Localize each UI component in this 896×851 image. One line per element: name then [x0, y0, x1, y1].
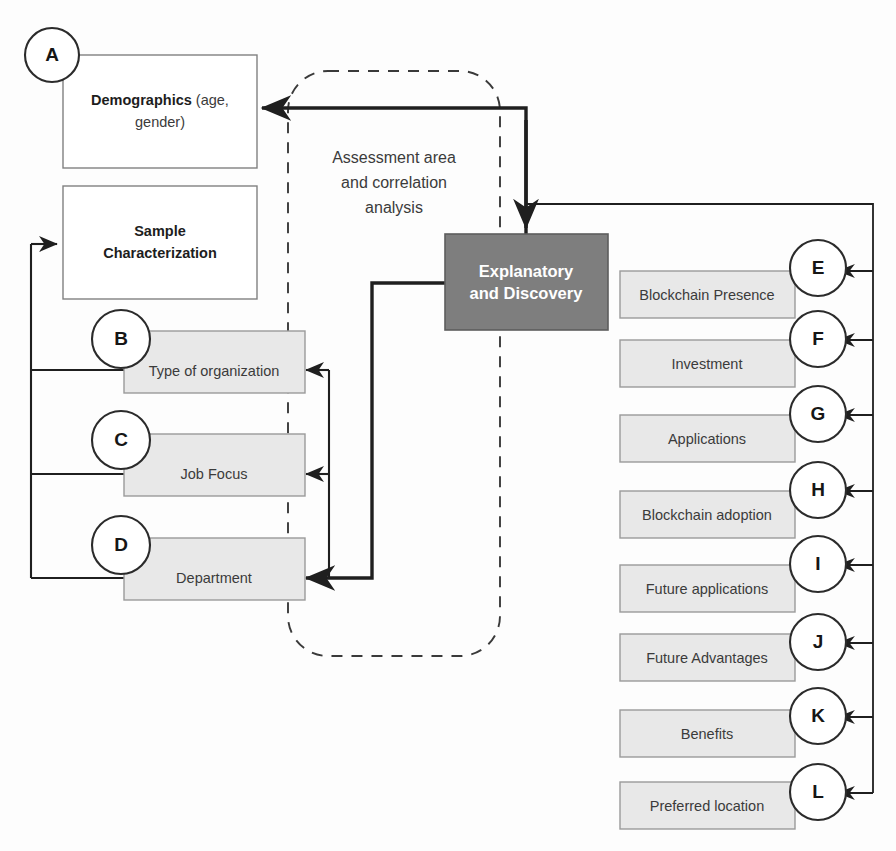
- node-label-benefits: Benefits: [681, 726, 733, 742]
- assessment-area-label-line-1: Assessment area: [332, 149, 456, 166]
- badge-g-label: G: [811, 403, 826, 424]
- badge-f[interactable]: F: [790, 311, 846, 367]
- node-label-demographics-bold: Demographics: [91, 92, 192, 108]
- node-label-applications: Applications: [668, 431, 746, 447]
- badge-b-label: B: [114, 328, 128, 349]
- badge-j[interactable]: J: [790, 614, 846, 670]
- badge-a[interactable]: A: [25, 28, 79, 82]
- node-label-sample-characterization-line1: Sample: [134, 223, 186, 239]
- badge-c-label: C: [114, 429, 128, 450]
- badge-j-label: J: [813, 631, 824, 652]
- badge-k-label: K: [811, 705, 825, 726]
- node-label-demographics-line2: gender): [135, 114, 185, 130]
- node-label-blockchain-presence: Blockchain Presence: [639, 287, 774, 303]
- node-label-explanatory-line2: and Discovery: [470, 284, 584, 302]
- badge-e[interactable]: E: [790, 240, 846, 296]
- badge-d-label: D: [114, 534, 128, 555]
- node-label-blockchain-adoption: Blockchain adoption: [642, 507, 772, 523]
- badge-l-label: L: [812, 781, 824, 802]
- node-label-demographics: Demographics (age,: [91, 92, 229, 108]
- badge-i-label: I: [815, 553, 820, 574]
- node-label-demographics-rest: (age,: [192, 92, 229, 108]
- node-label-job-focus: Job Focus: [181, 466, 248, 482]
- node-label-investment: Investment: [672, 356, 743, 372]
- badge-b[interactable]: B: [92, 310, 150, 368]
- badge-c[interactable]: C: [92, 411, 150, 469]
- badge-k[interactable]: K: [790, 688, 846, 744]
- badge-g[interactable]: G: [790, 386, 846, 442]
- badge-h[interactable]: H: [790, 462, 846, 518]
- node-label-preferred-location: Preferred location: [650, 798, 764, 814]
- badge-e-label: E: [812, 257, 825, 278]
- node-box-demographics[interactable]: [63, 55, 257, 168]
- assessment-area-label-line-2: and correlation: [341, 174, 447, 191]
- diagram-canvas-container: Assessment area and correlation analysis: [0, 0, 896, 851]
- badge-l[interactable]: L: [790, 764, 846, 820]
- badge-d[interactable]: D: [92, 516, 150, 574]
- flow-diagram: Assessment area and correlation analysis: [0, 0, 896, 851]
- node-box-job-focus[interactable]: [124, 434, 305, 496]
- assessment-area-label-line-3: analysis: [365, 199, 423, 216]
- node-label-department: Department: [176, 570, 252, 586]
- node-box-explanatory-and-discovery[interactable]: [445, 234, 608, 330]
- node-label-explanatory-line1: Explanatory: [479, 262, 574, 280]
- badge-h-label: H: [811, 479, 825, 500]
- explanatory-to-department-route: [306, 283, 445, 578]
- node-box-sample-characterization[interactable]: [63, 186, 257, 299]
- node-box-department[interactable]: [124, 538, 305, 600]
- badge-a-label: A: [45, 44, 59, 65]
- node-label-future-applications: Future applications: [646, 581, 769, 597]
- node-box-type-of-organization[interactable]: [124, 331, 305, 393]
- node-label-type-of-organization: Type of organization: [149, 363, 280, 379]
- node-label-sample-characterization-line2: Characterization: [103, 245, 217, 261]
- node-label-future-advantages: Future Advantages: [646, 650, 768, 666]
- badge-i[interactable]: I: [790, 536, 846, 592]
- badge-f-label: F: [812, 328, 824, 349]
